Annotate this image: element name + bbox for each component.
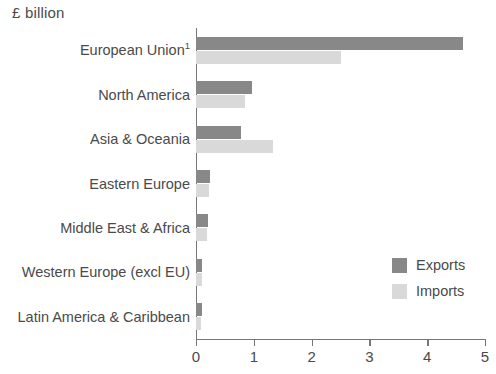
category-label-text: Western Europe (excl EU) bbox=[22, 264, 190, 280]
x-axis-tick bbox=[196, 340, 197, 346]
category-label-text: Latin America & Caribbean bbox=[18, 309, 191, 325]
x-axis-tick-label: 1 bbox=[250, 348, 258, 365]
legend-swatch bbox=[392, 258, 407, 273]
category-label-text: European Union bbox=[80, 42, 185, 58]
category-label: European Union1 bbox=[0, 42, 190, 58]
x-axis-tick-label: 3 bbox=[365, 348, 373, 365]
chart-title: £ billion bbox=[12, 4, 65, 21]
category-label: Eastern Europe bbox=[0, 176, 190, 192]
bar-chart: £ billion 012345 European Union1North Am… bbox=[0, 0, 496, 374]
category-label-text: Eastern Europe bbox=[89, 176, 190, 192]
category-label: Western Europe (excl EU) bbox=[0, 264, 190, 280]
category-label: Middle East & Africa bbox=[0, 220, 190, 236]
footnote-marker: 1 bbox=[185, 40, 190, 51]
bar-exports bbox=[196, 81, 252, 94]
bar-imports bbox=[196, 95, 245, 108]
bar-imports bbox=[196, 184, 209, 197]
x-axis-tick bbox=[369, 340, 370, 346]
bar-imports bbox=[196, 51, 341, 64]
bar-exports bbox=[196, 303, 202, 316]
category-label: Asia & Oceania bbox=[0, 131, 190, 147]
legend-item-exports: Exports bbox=[392, 252, 465, 278]
legend-label: Exports bbox=[416, 257, 465, 273]
bar-imports bbox=[196, 273, 202, 286]
chart-legend: ExportsImports bbox=[392, 252, 465, 304]
value-axis-line bbox=[196, 339, 486, 340]
x-axis-tick bbox=[427, 340, 428, 346]
bar-exports bbox=[196, 170, 210, 183]
bar-imports bbox=[196, 228, 207, 241]
x-axis-tick-label: 4 bbox=[423, 348, 431, 365]
category-label: Latin America & Caribbean bbox=[0, 309, 190, 325]
x-axis-tick bbox=[312, 340, 313, 346]
x-axis-tick-label: 2 bbox=[307, 348, 315, 365]
bar-imports bbox=[196, 317, 201, 330]
bar-exports bbox=[196, 37, 463, 50]
category-label-text: Middle East & Africa bbox=[60, 220, 190, 236]
category-label: North America bbox=[0, 87, 190, 103]
bar-imports bbox=[196, 140, 273, 153]
x-axis-tick-label: 0 bbox=[192, 348, 200, 365]
x-axis-tick bbox=[254, 340, 255, 346]
bar-exports bbox=[196, 259, 202, 272]
x-axis-tick-label: 5 bbox=[481, 348, 489, 365]
legend-label: Imports bbox=[416, 283, 464, 299]
x-axis-tick bbox=[485, 340, 486, 346]
category-label-text: North America bbox=[98, 87, 190, 103]
legend-swatch bbox=[392, 284, 407, 299]
legend-item-imports: Imports bbox=[392, 278, 465, 304]
bar-exports bbox=[196, 126, 241, 139]
category-label-text: Asia & Oceania bbox=[90, 131, 190, 147]
bar-exports bbox=[196, 214, 208, 227]
